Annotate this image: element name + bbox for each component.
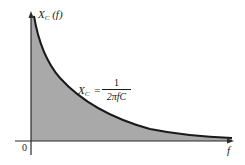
x-axis-label: f: [227, 144, 230, 156]
formula-equals: =: [94, 84, 100, 96]
y-label-subscript: C: [45, 14, 50, 22]
y-axis-arrow-icon: [29, 11, 34, 18]
formula-symbol: X: [78, 84, 85, 96]
formula-denominator: 2πfC: [107, 91, 126, 102]
y-label-arg: (f): [52, 8, 62, 20]
y-axis-label: XC (f): [38, 8, 63, 22]
area-under-curve: [31, 14, 232, 141]
y-label-symbol: X: [38, 8, 45, 20]
fraction-bar: [102, 89, 131, 90]
formula-numerator: 1: [114, 78, 119, 88]
formula-fraction: 1 2πfC: [102, 78, 131, 102]
formula-lhs: XC =: [78, 84, 100, 98]
formula-subscript: C: [85, 90, 90, 98]
origin-label: 0: [22, 142, 27, 153]
